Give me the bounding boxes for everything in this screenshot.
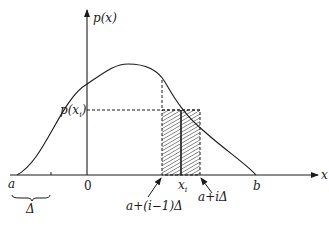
y-axis-label: p(x)	[93, 11, 117, 25]
origin-label: 0	[84, 179, 92, 193]
right-edge-label: a+iΔ	[198, 190, 228, 204]
left-edge-pointer	[148, 178, 161, 197]
xi-label: xi	[178, 178, 188, 194]
left-edge-label: a+(i−1)Δ	[126, 199, 183, 213]
b-label: b	[253, 179, 261, 193]
density-curve	[17, 64, 256, 175]
a-label: a	[8, 177, 15, 191]
density-diagram: p(x) x 0 a b xi p(xi) a+(i−1)Δ a+iΔ Δ	[0, 0, 329, 227]
delta-label: Δ	[25, 202, 35, 216]
p-xi-label: p(xi)	[60, 103, 87, 119]
delta-brace	[12, 195, 50, 201]
x-axis-label: x	[321, 168, 328, 182]
